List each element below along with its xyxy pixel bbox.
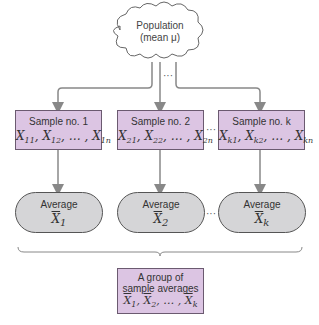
ellipsis: ··· — [206, 208, 216, 219]
population-label: Population (mean μ) — [110, 20, 210, 44]
average-node-1: Average X1 — [15, 192, 103, 233]
sample-values: X21, X22, … , X2n — [118, 128, 203, 149]
average-node-2: Average X2 — [117, 192, 205, 233]
group-of-averages-box: A group of sample averages X1, X2, … , X… — [117, 268, 204, 314]
sample-box-2: Sample no. 2 X21, X22, … , X2n — [117, 110, 204, 150]
average-node-k: Average Xk — [218, 192, 306, 233]
sample-box-k: Sample no. k Xk1, Xk2, … , Xkn — [218, 110, 305, 150]
ellipsis: ··· — [163, 70, 173, 81]
sample-values: Xk1, Xk2, … , Xkn — [219, 128, 304, 149]
grouping-brace — [18, 247, 302, 256]
sample-values: X11, X12, … , X1n — [16, 128, 101, 149]
ellipsis: ··· — [206, 124, 216, 135]
sample-box-1: Sample no. 1 X11, X12, … , X1n — [15, 110, 102, 150]
